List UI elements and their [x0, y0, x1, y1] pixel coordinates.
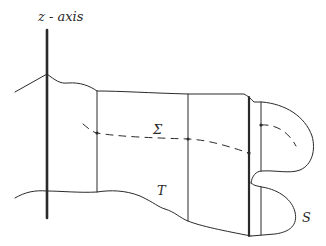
intersection-dot-1 — [95, 131, 98, 134]
sigma-dashed-curve-lobe — [261, 125, 296, 146]
sigma-dashed-curve — [83, 124, 249, 153]
t-label: T — [157, 183, 166, 198]
intersection-dot-2 — [186, 137, 189, 140]
intersection-dot-3 — [247, 151, 250, 154]
bottom-boundary-curve — [15, 191, 251, 236]
bottom-lobe-curve — [251, 183, 296, 236]
sigma-label: Σ — [153, 122, 162, 137]
z-axis-label: z - axis — [38, 9, 83, 24]
diagram-figure — [0, 0, 326, 246]
top-boundary-curve — [15, 74, 314, 183]
intersection-dot-4 — [259, 123, 262, 126]
s-label: S — [302, 210, 311, 225]
diagram-canvas: z - axis Σ T S — [0, 0, 326, 246]
